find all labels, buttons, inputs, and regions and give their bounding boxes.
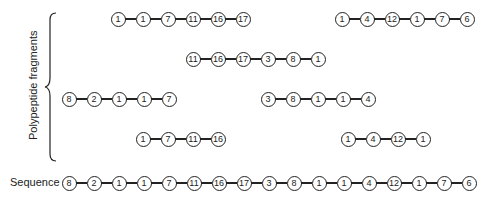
peptide-bond	[150, 138, 161, 139]
peptide-bond	[176, 182, 187, 183]
fragment-residue: 6	[460, 12, 475, 27]
peptide-bond	[125, 18, 136, 19]
fragment-residue: 12	[391, 132, 406, 147]
fragment-residue: 1	[136, 132, 151, 147]
peptide-bond	[175, 18, 186, 19]
peptide-bond	[351, 182, 362, 183]
sequence-residue: 2	[87, 176, 102, 191]
sequence-residue: 1	[137, 176, 152, 191]
fragment-residue: 8	[286, 52, 301, 67]
peptide-bond	[355, 138, 366, 139]
fragment-residue: 12	[385, 12, 400, 27]
peptide-bond	[200, 138, 211, 139]
peptide-bond	[150, 18, 161, 19]
peptide-bond	[200, 58, 211, 59]
peptide-bond	[349, 18, 360, 19]
sequence-residue: 6	[462, 176, 477, 191]
fragment-residue: 7	[162, 92, 177, 107]
sequence-residue: 17	[237, 176, 252, 191]
fragment-residue: 7	[161, 12, 176, 27]
peptide-bond	[101, 98, 112, 99]
fragment-residue: 8	[286, 92, 301, 107]
fragment-residue: 1	[335, 12, 350, 27]
peptide-diagram: Polypeptide fragments Sequence 117111617…	[0, 0, 495, 205]
peptide-bond	[126, 98, 137, 99]
peptide-bond	[275, 98, 286, 99]
peptide-bond	[226, 182, 237, 183]
peptide-bond	[126, 182, 137, 183]
peptide-bond	[426, 182, 437, 183]
fragment-residue: 11	[186, 52, 201, 67]
fragment-residue: 17	[236, 52, 251, 67]
fragment-residue: 7	[435, 12, 450, 27]
sequence-residue: 16	[212, 176, 227, 191]
fragment-residue: 1	[112, 92, 127, 107]
fragment-residue: 16	[211, 12, 226, 27]
sequence-residue: 1	[312, 176, 327, 191]
peptide-bond	[175, 138, 186, 139]
peptide-bond	[350, 98, 361, 99]
sequence-residue: 7	[437, 176, 452, 191]
peptide-bond	[151, 98, 162, 99]
fragment-residue: 4	[361, 92, 376, 107]
peptide-bond	[424, 18, 435, 19]
fragment-residue: 4	[366, 132, 381, 147]
peptide-bond	[376, 182, 387, 183]
sequence-residue: 1	[412, 176, 427, 191]
fragment-residue: 1	[137, 92, 152, 107]
fragment-residue: 1	[311, 92, 326, 107]
fragment-residue: 1	[311, 52, 326, 67]
fragment-residue: 4	[360, 12, 375, 27]
peptide-bond	[225, 58, 236, 59]
fragment-residue: 1	[136, 12, 151, 27]
peptide-bond	[449, 18, 460, 19]
fragment-residue: 16	[211, 52, 226, 67]
peptide-bond	[405, 138, 416, 139]
fragment-residue: 7	[161, 132, 176, 147]
peptide-bond	[76, 182, 87, 183]
fragment-residue: 1	[336, 92, 351, 107]
peptide-bond	[380, 138, 391, 139]
fragments-label: Polypeptide fragments	[27, 31, 39, 140]
peptide-bond	[451, 182, 462, 183]
peptide-bond	[76, 98, 87, 99]
peptide-bond	[399, 18, 410, 19]
peptide-bond	[201, 182, 212, 183]
peptide-bond	[301, 182, 312, 183]
sequence-residue: 12	[387, 176, 402, 191]
fragment-residue: 1	[416, 132, 431, 147]
sequence-residue: 7	[162, 176, 177, 191]
fragment-residue: 2	[87, 92, 102, 107]
peptide-bond	[325, 98, 336, 99]
sequence-residue: 4	[362, 176, 377, 191]
fragment-residue: 3	[261, 52, 276, 67]
peptide-bond	[300, 58, 311, 59]
peptide-bond	[251, 182, 262, 183]
peptide-bond	[151, 182, 162, 183]
peptide-bond	[275, 58, 286, 59]
peptide-bond	[101, 182, 112, 183]
brace-icon	[44, 12, 58, 162]
sequence-residue: 8	[287, 176, 302, 191]
peptide-bond	[374, 18, 385, 19]
peptide-bond	[250, 58, 261, 59]
fragment-residue: 11	[186, 132, 201, 147]
fragment-residue: 17	[236, 12, 251, 27]
fragment-residue: 1	[410, 12, 425, 27]
peptide-bond	[401, 182, 412, 183]
sequence-residue: 1	[112, 176, 127, 191]
sequence-residue: 1	[337, 176, 352, 191]
fragment-residue: 16	[211, 132, 226, 147]
peptide-bond	[225, 18, 236, 19]
peptide-bond	[300, 98, 311, 99]
peptide-bond	[326, 182, 337, 183]
sequence-residue: 3	[262, 176, 277, 191]
fragment-residue: 11	[186, 12, 201, 27]
sequence-residue: 8	[62, 176, 77, 191]
sequence-label: Sequence	[10, 176, 60, 188]
fragment-residue: 8	[62, 92, 77, 107]
fragment-residue: 1	[341, 132, 356, 147]
sequence-residue: 11	[187, 176, 202, 191]
peptide-bond	[200, 18, 211, 19]
peptide-bond	[276, 182, 287, 183]
